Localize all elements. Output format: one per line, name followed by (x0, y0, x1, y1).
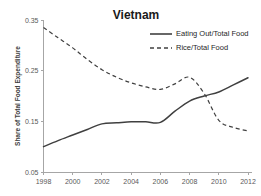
chart-figure: Vietnam Share of Total Food Expenditure … (0, 0, 261, 196)
chart-title: Vietnam (113, 8, 159, 22)
line-chart: Vietnam Share of Total Food Expenditure … (0, 0, 261, 196)
y-axis-title: Share of Total Food Expenditure (14, 46, 22, 146)
x-tick-label: 2002 (94, 178, 110, 185)
y-tick-label: 0.05 (25, 169, 39, 176)
y-tick-label: 0.15 (25, 118, 39, 125)
x-tick-label: 2006 (153, 178, 169, 185)
x-tick-label: 2012 (240, 178, 256, 185)
legend-label-rice: Rice/Total Food (176, 43, 228, 52)
x-tick-label: 2004 (123, 178, 139, 185)
x-tick-label: 2000 (65, 178, 81, 185)
y-tick-label: 0.25 (25, 67, 39, 74)
x-tick-label: 1998 (36, 178, 52, 185)
y-tick-label: 0.35 (25, 17, 39, 24)
legend-label-eating-out: Eating Out/Total Food (176, 29, 249, 38)
x-tick-label: 2010 (211, 178, 227, 185)
x-tick-label: 2008 (182, 178, 198, 185)
